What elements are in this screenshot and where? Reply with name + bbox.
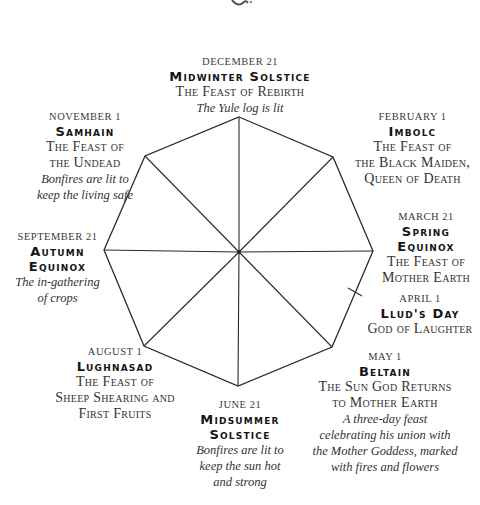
festival-feast: The Feast of: [372, 254, 480, 270]
festival-date: JUNE 21: [175, 398, 305, 412]
festival-feast: the Undead: [30, 155, 140, 171]
festival-feast: The Feast of: [30, 139, 140, 155]
festival-feast: to Mother Earth: [290, 395, 480, 411]
festival-feast: First Fruits: [40, 406, 190, 422]
festival-midsummer-solstice: JUNE 21 Midsummer Solstice Bonfires are …: [175, 398, 305, 490]
festival-date: MARCH 21: [372, 210, 480, 224]
festival-autumn-equinox: SEPTEMBER 21 Autumn Equinox The in-gathe…: [10, 230, 105, 306]
festival-name: Llud's Day: [360, 306, 480, 321]
festival-date: APRIL 1: [360, 292, 480, 306]
festival-feast: Queen of Death: [345, 171, 480, 187]
festival-name: Beltain: [290, 364, 480, 379]
festival-name: Midwinter Solstice: [140, 69, 340, 84]
festival-date: AUGUST 1: [40, 345, 190, 359]
festival-feast: the Black Maiden,: [345, 155, 480, 171]
festival-feast: Sheep Shearing and: [40, 390, 190, 406]
festival-date: DECEMBER 21: [140, 55, 340, 69]
festival-spring-equinox: MARCH 21 Spring Equinox The Feast of Mot…: [372, 210, 480, 286]
festival-note: with fires and flowers: [290, 459, 480, 475]
festival-note: the Mother Goddess, marked: [290, 443, 480, 459]
festival-name: Equinox: [10, 259, 105, 274]
festival-feast: The Feast of: [40, 374, 190, 390]
festival-name: Solstice: [175, 427, 305, 442]
festival-feast: The Sun God Returns: [290, 379, 480, 395]
festival-date: NOVEMBER 1: [30, 110, 140, 124]
festival-midwinter-solstice: DECEMBER 21 Midwinter Solstice The Feast…: [140, 55, 340, 116]
festival-note: Bonfires are lit to: [30, 171, 140, 187]
festival-name: Autumn: [10, 244, 105, 259]
festival-samhain: NOVEMBER 1 Samhain The Feast of the Unde…: [30, 110, 140, 203]
festival-date: FEBRUARY 1: [345, 110, 480, 124]
festival-name: Midsummer: [175, 412, 305, 427]
festival-date: MAY 1: [290, 350, 480, 364]
festival-beltain: MAY 1 Beltain The Sun God Returns to Mot…: [290, 350, 480, 475]
festival-feast: The Feast of: [345, 139, 480, 155]
festival-name: Equinox: [372, 239, 480, 254]
festival-name: Spring: [372, 224, 480, 239]
festival-note: and strong: [175, 474, 305, 490]
festival-note: The in-gathering: [10, 274, 105, 290]
festival-note: keep the living safe: [30, 187, 140, 203]
festival-feast: God of Laughter: [360, 321, 480, 337]
festival-name: Samhain: [30, 124, 140, 139]
festival-note: Bonfires are lit to: [175, 442, 305, 458]
festival-name: Imbolc: [345, 124, 480, 139]
festival-lluds-day: APRIL 1 Llud's Day God of Laughter: [360, 292, 480, 337]
festival-note: The Yule log is lit: [140, 100, 340, 116]
festival-lughnasad: AUGUST 1 Lughnasad The Feast of Sheep Sh…: [40, 345, 190, 422]
wheel-center-dot: [237, 250, 241, 254]
festival-feast: Mother Earth: [372, 270, 480, 286]
festival-note: A three-day feast: [290, 411, 480, 427]
festival-note: celebrating his union with: [290, 427, 480, 443]
festival-name: Lughnasad: [40, 359, 190, 374]
festival-imbolc: FEBRUARY 1 Imbolc The Feast of the Black…: [345, 110, 480, 187]
festival-note: keep the sun hot: [175, 458, 305, 474]
festival-date: SEPTEMBER 21: [10, 230, 105, 244]
festival-feast: The Feast of Rebirth: [140, 84, 340, 100]
festival-note: of crops: [10, 290, 105, 306]
